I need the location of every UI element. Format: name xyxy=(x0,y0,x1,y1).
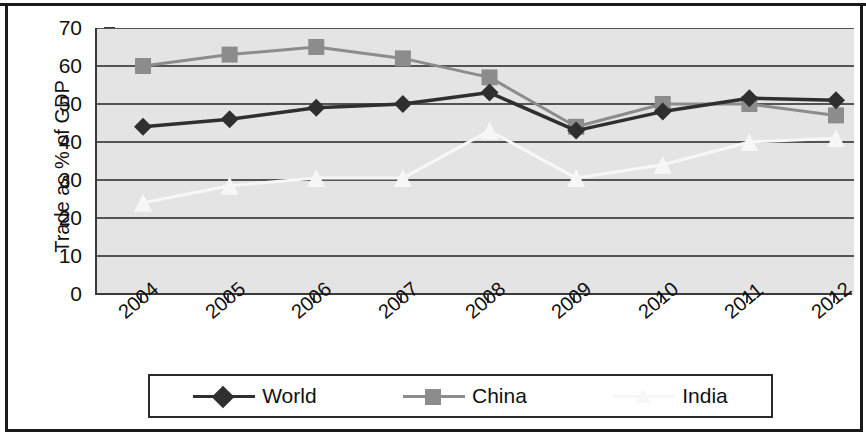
legend-key-world xyxy=(193,386,255,406)
y-axis-tick-label: 20 xyxy=(22,207,82,228)
legend-marker-triangle-icon xyxy=(635,389,651,403)
legend-label: World xyxy=(262,384,316,408)
data-point-marker xyxy=(135,58,151,74)
plot-area xyxy=(95,28,854,294)
y-axis-tick-label: 40 xyxy=(22,131,82,152)
data-point-marker xyxy=(222,47,238,63)
data-point-marker xyxy=(482,69,498,85)
chart-legend: WorldChinaIndia xyxy=(148,374,773,418)
data-point-marker xyxy=(828,107,844,123)
y-axis-tick-label: 10 xyxy=(22,245,82,266)
y-axis-tick-label: 60 xyxy=(22,55,82,76)
legend-key-china xyxy=(403,386,465,406)
y-axis-tick-label: 70 xyxy=(22,17,82,38)
data-point-marker xyxy=(394,95,412,113)
data-point-marker xyxy=(307,99,325,117)
data-point-marker xyxy=(308,39,324,55)
data-point-marker xyxy=(395,50,411,66)
y-axis-tick-label: 30 xyxy=(22,169,82,190)
data-point-marker xyxy=(481,122,499,140)
legend-label: India xyxy=(682,384,728,408)
legend-key-india xyxy=(613,386,675,406)
legend-label: China xyxy=(472,384,527,408)
data-point-marker xyxy=(134,118,152,136)
legend-entry-china[interactable]: China xyxy=(403,384,527,408)
legend-marker-diamond-icon xyxy=(212,386,235,409)
figure-border-right xyxy=(860,3,863,432)
y-axis-tick-label: 0 xyxy=(22,283,82,304)
chart-figure: Trade as % of GDP 010203040506070 200420… xyxy=(0,0,866,435)
figure-border-left xyxy=(5,3,8,432)
data-point-marker xyxy=(221,110,239,128)
legend-marker-square-icon xyxy=(425,389,441,405)
legend-entry-world[interactable]: World xyxy=(193,384,316,408)
data-point-marker xyxy=(481,84,499,102)
data-point-marker xyxy=(827,91,845,109)
legend-entry-india[interactable]: India xyxy=(613,384,728,408)
figure-border-top xyxy=(0,3,866,6)
y-axis-tick-label: 50 xyxy=(22,93,82,114)
figure-border-bottom xyxy=(5,429,862,432)
plot-svg xyxy=(97,28,854,294)
y-axis-tick-labels: 010203040506070 xyxy=(20,0,82,300)
